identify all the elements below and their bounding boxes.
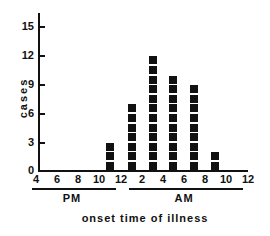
case-square xyxy=(149,85,157,93)
case-square xyxy=(169,95,177,103)
y-tick-label: 15 xyxy=(18,20,34,32)
case-square xyxy=(106,143,114,151)
x-tick-label: 12 xyxy=(238,173,258,185)
case-square xyxy=(169,104,177,112)
case-square xyxy=(128,114,136,122)
case-square xyxy=(149,152,157,160)
case-square xyxy=(169,76,177,84)
case-square xyxy=(190,152,198,160)
case-square xyxy=(149,114,157,122)
y-tick xyxy=(40,142,45,144)
y-axis-title: cases xyxy=(17,73,29,123)
case-square xyxy=(128,133,136,141)
case-square xyxy=(149,133,157,141)
case-square xyxy=(190,124,198,132)
case-square xyxy=(169,152,177,160)
y-tick xyxy=(40,55,45,57)
case-square xyxy=(169,124,177,132)
case-square xyxy=(190,133,198,141)
case-square xyxy=(190,114,198,122)
case-square xyxy=(149,124,157,132)
x-tick-label: 10 xyxy=(89,173,109,185)
case-column xyxy=(128,103,137,170)
pm-bracket-line xyxy=(32,188,116,190)
case-square xyxy=(190,143,198,151)
y-tick-label: 3 xyxy=(18,136,34,148)
case-square xyxy=(106,162,114,170)
case-column xyxy=(211,151,220,170)
y-tick xyxy=(40,84,45,86)
case-square xyxy=(128,143,136,151)
case-square xyxy=(169,162,177,170)
x-tick-label: 8 xyxy=(68,173,88,185)
case-square xyxy=(190,104,198,112)
case-square xyxy=(169,85,177,93)
y-axis-line xyxy=(38,13,40,172)
case-square xyxy=(128,124,136,132)
case-square xyxy=(106,152,114,160)
x-axis-line xyxy=(38,170,248,172)
am-label: AM xyxy=(164,192,204,204)
case-square xyxy=(149,143,157,151)
am-bracket-line xyxy=(129,188,243,190)
case-square xyxy=(169,114,177,122)
x-axis-title: onset time of illness xyxy=(60,212,230,224)
case-column xyxy=(106,141,115,170)
case-square xyxy=(149,76,157,84)
case-square xyxy=(211,152,219,160)
x-tick-label: 4 xyxy=(153,173,173,185)
x-tick-label: 6 xyxy=(174,173,194,185)
case-square xyxy=(190,85,198,93)
case-square xyxy=(128,104,136,112)
case-square xyxy=(149,95,157,103)
x-tick-label: 4 xyxy=(26,173,46,185)
case-square xyxy=(169,143,177,151)
x-tick-label: 10 xyxy=(216,173,236,185)
case-column xyxy=(190,84,199,170)
case-column xyxy=(149,55,158,170)
x-tick-label: 2 xyxy=(132,173,152,185)
y-tick xyxy=(40,113,45,115)
x-tick-label: 6 xyxy=(47,173,67,185)
case-column xyxy=(169,74,178,170)
pm-label: PM xyxy=(52,192,92,204)
case-square xyxy=(190,95,198,103)
x-tick-label: 12 xyxy=(111,173,131,185)
case-square xyxy=(149,162,157,170)
case-square xyxy=(149,104,157,112)
case-square xyxy=(211,162,219,170)
x-tick-label: 8 xyxy=(195,173,215,185)
case-square xyxy=(190,162,198,170)
case-square xyxy=(128,162,136,170)
case-square xyxy=(169,133,177,141)
y-tick xyxy=(40,26,45,28)
case-square xyxy=(149,56,157,64)
y-tick-label: 12 xyxy=(18,49,34,61)
case-square xyxy=(149,66,157,74)
case-square xyxy=(128,152,136,160)
